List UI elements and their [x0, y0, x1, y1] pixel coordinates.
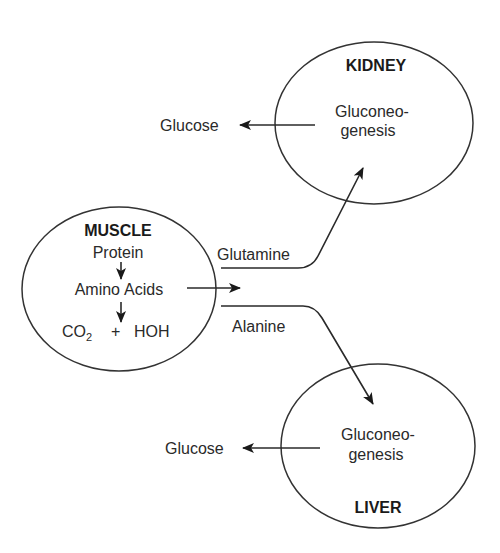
- muscle-hoh: HOH: [134, 323, 170, 340]
- muscle-plus: +: [111, 323, 120, 340]
- muscle-node: MUSCLE Protein Amino Acids CO2 + HOH: [22, 207, 240, 371]
- alanine-label: Alanine: [232, 318, 285, 335]
- liver-process-line2: genesis: [348, 446, 403, 463]
- kidney-process-line2: genesis: [340, 122, 395, 139]
- liver-node: Gluconeo- genesis LIVER Glucose: [165, 364, 475, 528]
- muscle-amino: Amino: [75, 281, 120, 298]
- muscle-co2: CO2: [62, 323, 92, 343]
- kidney-process-line1: Gluconeo-: [335, 103, 409, 120]
- kidney-title: KIDNEY: [346, 57, 407, 74]
- diagram-canvas: KIDNEY Gluconeo- genesis Glucose MUSCLE …: [0, 0, 500, 553]
- muscle-title: MUSCLE: [84, 222, 152, 239]
- liver-title: LIVER: [354, 499, 402, 516]
- liver-glucose-label: Glucose: [165, 440, 224, 457]
- glutamine-label: Glutamine: [217, 246, 290, 263]
- alanine-edge: Alanine: [221, 306, 373, 404]
- glutamine-edge: Glutamine: [217, 168, 363, 268]
- kidney-glucose-label: Glucose: [160, 117, 219, 134]
- muscle-acids: Acids: [124, 281, 163, 298]
- kidney-node: KIDNEY Gluconeo- genesis Glucose: [160, 42, 473, 204]
- liver-process-line1: Gluconeo-: [341, 426, 415, 443]
- muscle-protein: Protein: [93, 244, 144, 261]
